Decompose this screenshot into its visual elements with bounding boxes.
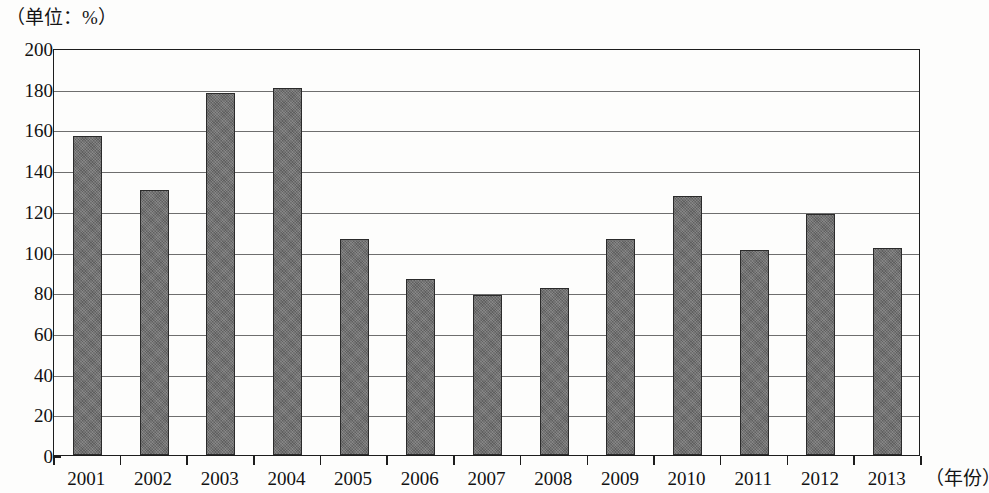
bar xyxy=(606,239,635,455)
x-tick-mark xyxy=(53,456,55,465)
x-tick-mark xyxy=(587,456,589,465)
bar xyxy=(806,214,835,455)
x-tick-mark xyxy=(653,456,655,465)
y-tick-label: 100 xyxy=(9,244,53,263)
bar xyxy=(473,295,502,455)
y-tick-label: 0 xyxy=(9,447,53,466)
y-tick-label: 160 xyxy=(9,121,53,140)
bar xyxy=(273,88,302,455)
x-tick-mark xyxy=(186,456,188,465)
y-tick-label: 120 xyxy=(9,203,53,222)
x-tick-mark xyxy=(453,456,455,465)
y-tick-label: 20 xyxy=(9,406,53,425)
y-tick-label: 200 xyxy=(9,40,53,59)
x-tick-mark xyxy=(520,456,522,465)
x-tick-mark xyxy=(253,456,255,465)
x-tick-mark xyxy=(120,456,122,465)
x-tick-label: 2013 xyxy=(847,468,927,490)
gridline xyxy=(54,91,919,92)
bar xyxy=(740,250,769,455)
x-tick-mark xyxy=(787,456,789,465)
bar xyxy=(206,93,235,455)
bar xyxy=(540,288,569,455)
x-tick-mark xyxy=(920,456,922,465)
y-tick-label: 60 xyxy=(9,325,53,344)
x-tick-mark xyxy=(853,456,855,465)
gridline xyxy=(54,172,919,173)
x-tick-mark xyxy=(386,456,388,465)
gridline xyxy=(54,213,919,214)
y-tick-label: 40 xyxy=(9,366,53,385)
x-tick-mark xyxy=(320,456,322,465)
y-tick-label: 80 xyxy=(9,284,53,303)
gridline xyxy=(54,131,919,132)
bar xyxy=(340,239,369,455)
unit-caption: （单位：%） xyxy=(6,2,117,29)
y-tick-label: 180 xyxy=(9,81,53,100)
bar xyxy=(73,136,102,455)
bar xyxy=(140,190,169,455)
y-tick-label: 140 xyxy=(9,162,53,181)
bar xyxy=(873,248,902,455)
plot-area xyxy=(53,49,920,456)
x-axis: 2001200220032004200520062007200820092010… xyxy=(53,456,920,493)
bar xyxy=(673,196,702,455)
bar xyxy=(406,279,435,455)
y-axis: 200180160140120100806040200 xyxy=(0,40,53,465)
gridline xyxy=(54,254,919,255)
x-axis-title: （年份） xyxy=(925,468,989,490)
bar-chart-figure: （单位：%） 200180160140120100806040200 20012… xyxy=(0,0,989,493)
x-tick-mark xyxy=(720,456,722,465)
